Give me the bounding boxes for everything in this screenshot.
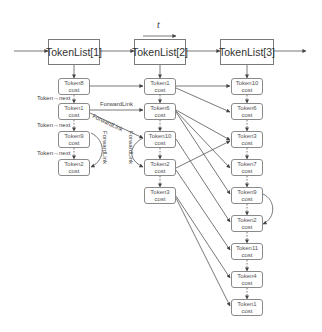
token-node: Token10cost (144, 131, 176, 148)
next-label: Token→next (37, 122, 70, 128)
token-list-2: TokenList[2] (134, 39, 186, 65)
token-node: Token3cost (231, 131, 263, 148)
token-node: Token3cost (144, 187, 176, 204)
forward-link-label: ForwardLink (128, 131, 134, 164)
time-axis-label: t (157, 19, 160, 30)
token-node: Token6cost (231, 103, 263, 120)
token-node: Token2cost (144, 159, 176, 176)
next-label: Token→next (37, 150, 70, 156)
next-label: Token→next (37, 95, 70, 101)
token-node: Token8cost (58, 78, 90, 95)
token-node: Token11cost (231, 243, 263, 260)
token-lattice-diagram: t TokenList[1] TokenList[2] TokenList[3]… (0, 0, 322, 332)
token-node: Token2cost (58, 159, 90, 176)
token-node: Token9cost (58, 131, 90, 148)
token-node: Token6cost (144, 103, 176, 120)
token-node: Token1cost (58, 103, 90, 120)
token-list-3: TokenList[3] (220, 39, 274, 65)
token-node: Token1cost (144, 78, 176, 95)
forward-link-label: ForwardLink (102, 131, 108, 164)
token-list-1: TokenList[1] (48, 39, 100, 65)
token-node: Token1cost (231, 299, 263, 316)
forward-link-label: ForwardLink (100, 101, 133, 107)
token-node: Token2cost (231, 215, 263, 232)
token-node: Token4cost (231, 271, 263, 288)
token-node: Token10cost (231, 78, 263, 95)
token-node: Token7cost (231, 159, 263, 176)
token-node: Token9cost (231, 187, 263, 204)
